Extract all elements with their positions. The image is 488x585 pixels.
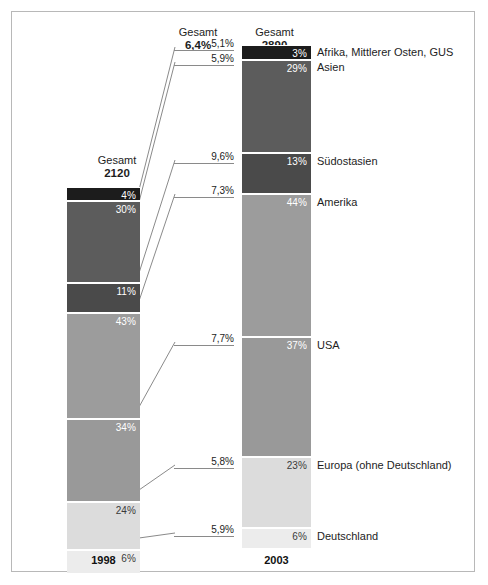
segment-pct-amerika-1998: 43% bbox=[116, 316, 136, 327]
stacked-bar-2003: 3% 29% 13% 44% 37% 23% 6% bbox=[242, 45, 311, 549]
segment-deutschland-2003[interactable]: 6% bbox=[242, 528, 311, 549]
connector-deutschland bbox=[139, 533, 175, 538]
growth-rate-amerika: 7,3% bbox=[174, 185, 234, 198]
growth-rate-usa-value: 7,7% bbox=[211, 333, 234, 344]
growth-rate-asien-value: 5,9% bbox=[211, 53, 234, 64]
total-caption-2003: Gesamt bbox=[255, 26, 294, 38]
segment-pct-amerika-2003: 44% bbox=[287, 197, 307, 208]
segment-suedostasien-1998[interactable]: 11% bbox=[67, 283, 140, 313]
category-label-suedostasien: Südostasien bbox=[317, 155, 378, 167]
growth-rate-deutschland-value: 5,9% bbox=[211, 524, 234, 535]
axis-label-2003: 2003 bbox=[242, 554, 311, 566]
growth-rate-asien: 5,9% bbox=[174, 53, 234, 66]
segment-afrika-2003[interactable]: 3% bbox=[242, 45, 311, 60]
growth-rule-europa bbox=[174, 468, 234, 469]
segment-afrika-1998[interactable]: 4% bbox=[67, 187, 140, 201]
axis-label-1998: 1998 bbox=[67, 554, 140, 566]
chart-frame: Gesamt 2120 4% 30% 11% 43% 34% 24% 6% 19… bbox=[11, 11, 475, 572]
growth-rate-europa-value: 5,8% bbox=[211, 456, 234, 467]
growth-rate-deutschland: 5,9% bbox=[174, 524, 234, 537]
segment-amerika-1998[interactable]: 43% bbox=[67, 313, 140, 419]
growth-rule-suedostasien bbox=[174, 163, 234, 164]
category-label-amerika: Amerika bbox=[317, 196, 357, 208]
segment-amerika-2003[interactable]: 44% bbox=[242, 194, 311, 337]
segment-pct-europa-2003: 23% bbox=[287, 460, 307, 471]
growth-rate-suedostasien-value: 9,6% bbox=[211, 151, 234, 162]
category-label-deutschland: Deutschland bbox=[317, 530, 378, 542]
growth-rule-afrika bbox=[174, 50, 234, 51]
growth-rule-usa bbox=[174, 345, 234, 346]
connector-europa bbox=[139, 465, 175, 490]
segment-usa-1998[interactable]: 34% bbox=[67, 419, 140, 502]
segment-europa-1998[interactable]: 24% bbox=[67, 502, 140, 550]
growth-rate-europa: 5,8% bbox=[174, 456, 234, 469]
segment-suedostasien-2003[interactable]: 13% bbox=[242, 153, 311, 194]
total-value-1998: 2120 bbox=[67, 167, 167, 180]
category-label-asien: Asien bbox=[317, 61, 345, 73]
segment-pct-asien-2003: 29% bbox=[287, 63, 307, 74]
growth-rule-deutschland bbox=[174, 536, 234, 537]
segment-pct-europa-1998: 24% bbox=[116, 505, 136, 516]
connector-asien bbox=[139, 62, 175, 202]
growth-rate-afrika: 5,1% bbox=[174, 38, 234, 51]
category-label-usa: USA bbox=[317, 339, 340, 351]
segment-pct-deutschland-2003: 6% bbox=[292, 531, 307, 542]
segment-europa-2003[interactable]: 23% bbox=[242, 457, 311, 528]
growth-rate-suedostasien: 9,6% bbox=[174, 151, 234, 164]
growth-rate-usa: 7,7% bbox=[174, 333, 234, 346]
total-caption-1998: Gesamt bbox=[98, 154, 137, 166]
segment-asien-1998[interactable]: 30% bbox=[67, 201, 140, 283]
segment-pct-afrika-2003: 3% bbox=[292, 48, 307, 59]
category-label-europa: Europa (ohne Deutschland) bbox=[317, 459, 452, 471]
growth-rate-afrika-value: 5,1% bbox=[211, 38, 234, 49]
segment-pct-afrika-1998: 4% bbox=[121, 190, 136, 201]
stacked-bar-1998: 4% 30% 11% 43% 34% 24% 6% bbox=[67, 187, 140, 549]
segment-pct-usa-1998: 34% bbox=[116, 422, 136, 433]
segment-pct-suedostasien-1998: 11% bbox=[116, 286, 136, 297]
segment-asien-2003[interactable]: 29% bbox=[242, 60, 311, 153]
category-label-afrika: Afrika, Mittlerer Osten, GUS bbox=[317, 46, 453, 58]
connector-amerika bbox=[139, 194, 175, 301]
segment-pct-suedostasien-2003: 13% bbox=[287, 156, 307, 167]
total-label-1998: Gesamt 2120 bbox=[67, 154, 167, 180]
growth-total-caption: Gesamt bbox=[179, 26, 218, 38]
segment-usa-2003[interactable]: 37% bbox=[242, 337, 311, 457]
segment-pct-usa-2003: 37% bbox=[287, 340, 307, 351]
growth-rule-amerika bbox=[174, 197, 234, 198]
growth-rule-asien bbox=[174, 65, 234, 66]
connector-usa bbox=[139, 342, 175, 407]
segment-pct-asien-1998: 30% bbox=[116, 204, 136, 215]
growth-rate-amerika-value: 7,3% bbox=[211, 185, 234, 196]
